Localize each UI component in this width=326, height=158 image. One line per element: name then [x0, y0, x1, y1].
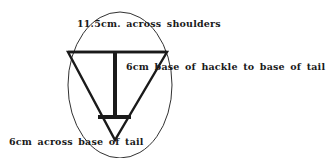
shoulders-label: 11.5cm. across shoulders	[77, 19, 221, 29]
hackle-to-tail-label: 6cm base of hackle to base of tail	[126, 62, 325, 72]
tail-base-label: 6cm across base of tail	[9, 137, 144, 147]
